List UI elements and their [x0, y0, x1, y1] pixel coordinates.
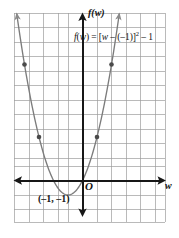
y-axis-label: f(w): [88, 8, 105, 18]
x-axis-label: w: [165, 181, 172, 191]
vertex-label: (–1, –1): [38, 194, 70, 204]
origin-label: O: [85, 181, 93, 192]
plot-point-1: [22, 62, 27, 67]
equation-minus: – (: [108, 32, 120, 42]
equation-tail: – 1: [139, 32, 153, 42]
plot-point-2: [37, 135, 42, 140]
plot-point-3: [95, 135, 100, 140]
equation-equals: = [: [89, 32, 102, 42]
parabola-graph-figure: f(w) = [w – (–1)]2 – 1 (–1, –1) f(w) w O: [0, 0, 179, 238]
equation-label: f(w) = [w – (–1)]2 – 1: [74, 33, 153, 43]
plot-point-4: [109, 62, 114, 67]
equation-neg-one: –1: [120, 32, 129, 42]
